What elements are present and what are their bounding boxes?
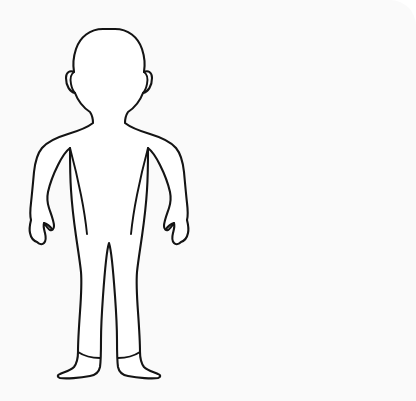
- body-outline-path: [30, 29, 189, 378]
- screenshot-root: Human Body Outline: [0, 0, 416, 401]
- human-body-figure: [0, 0, 416, 401]
